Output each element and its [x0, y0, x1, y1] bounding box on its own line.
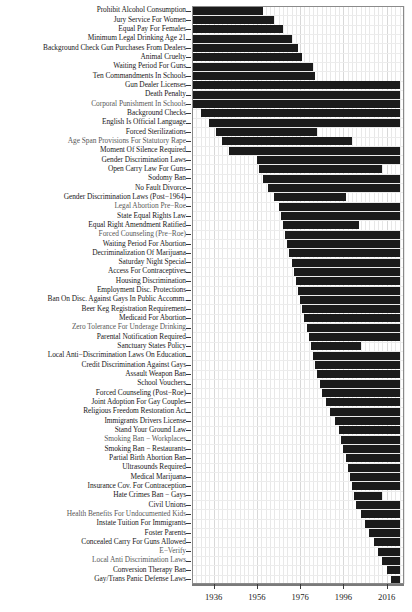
y-axis-label: Age Span Provisions For Statutory Rape [0, 137, 186, 145]
y-axis-tick [186, 533, 191, 534]
y-axis-label: Decriminalization Of Marijuana [0, 249, 186, 257]
y-axis-label: Immigrants Drivers License [0, 417, 186, 425]
timeline-bar [287, 240, 399, 248]
y-axis-label: Death Penalty [0, 90, 186, 98]
timeline-bar [263, 175, 399, 183]
timeline-bar [391, 576, 400, 584]
y-axis-label: Minimum Legal Drinking Age 21 [0, 34, 186, 42]
plot-area [192, 6, 404, 584]
y-axis-label: Forced Counseling (Post−Roe) [0, 389, 186, 397]
timeline-bar [192, 53, 302, 61]
y-axis-tick [186, 402, 191, 403]
y-axis-label: Gun Dealer Licenses [0, 81, 186, 89]
y-axis-label: Background Check Gun Purchases From Deal… [0, 44, 186, 52]
y-axis-tick [186, 421, 191, 422]
y-axis-tick [186, 570, 191, 571]
y-axis-tick [186, 141, 191, 142]
y-axis-label: Smoking Ban − Workplaces [0, 435, 186, 443]
x-axis-tick-label: 1956 [248, 592, 265, 602]
timeline-bar [268, 184, 400, 192]
y-axis-label: Jury Service For Women [0, 16, 186, 24]
timeline-bar [292, 259, 400, 267]
timeline-bar [192, 7, 263, 15]
timeline-bar [296, 277, 400, 285]
y-axis-tick [186, 449, 191, 450]
y-axis-tick [186, 216, 191, 217]
y-axis-tick [186, 253, 191, 254]
y-axis-tick [186, 328, 191, 329]
y-axis-label: Corporal Punishment In Schools [0, 100, 186, 108]
y-axis-tick [186, 132, 191, 133]
y-axis-tick [186, 151, 191, 152]
x-axis-tick-label: 1996 [335, 592, 352, 602]
y-axis-label: Ultrasounds Required [0, 463, 186, 471]
horizontal-gridline [192, 575, 404, 576]
vertical-gridline [404, 6, 405, 584]
y-axis-label: Equal Pay For Females [0, 25, 186, 33]
timeline-bar [309, 333, 400, 341]
horizontal-gridline [192, 342, 404, 343]
y-axis-label: State Equal Rights Law [0, 212, 186, 220]
y-axis-labels: Prohibit Alcohol ConsumptionJury Service… [0, 6, 186, 584]
y-axis-tick [186, 542, 191, 543]
timeline-bar [350, 473, 400, 481]
y-axis-tick [186, 123, 191, 124]
x-axis-tick [214, 584, 215, 589]
y-axis-tick [186, 262, 191, 263]
timeline-bar [274, 193, 345, 201]
y-axis-tick [186, 458, 191, 459]
y-axis-label: School Vouchers [0, 379, 186, 387]
horizontal-gridline [192, 556, 404, 557]
y-axis-tick [186, 272, 191, 273]
y-axis-tick [186, 29, 191, 30]
horizontal-gridline [192, 547, 404, 548]
y-axis-label: Gender Discrimination Laws (Post−1964) [0, 193, 186, 201]
y-axis-tick [186, 561, 191, 562]
timeline-bar [356, 501, 399, 509]
timeline-bar [339, 426, 400, 434]
timeline-bar [289, 249, 399, 257]
y-axis-label: Conversion Therapy Ban [0, 566, 186, 574]
timeline-bar [192, 100, 400, 108]
y-axis-label: Medical Marijuana [0, 473, 186, 481]
y-axis-tick [186, 300, 191, 301]
y-axis-tick [186, 57, 191, 58]
timeline-bar [283, 221, 359, 229]
timeline-bar [322, 389, 400, 397]
y-axis-label: Open Carry Law For Guns [0, 165, 186, 173]
y-axis-label: Waiting Period For Abortion [0, 240, 186, 248]
y-axis-tick [186, 178, 191, 179]
y-axis-tick [186, 234, 191, 235]
y-axis-label: Legal Abortion Pre−Roe [0, 202, 186, 210]
timeline-bar [365, 520, 400, 528]
timeline-bar [216, 128, 318, 136]
timeline-bar [285, 231, 400, 239]
x-axis-tick [257, 584, 258, 589]
timeline-bar [387, 566, 400, 574]
y-axis-label: Forced Counseling (Pre−Roe) [0, 230, 186, 238]
timeline-bar [279, 203, 400, 211]
y-axis-label: Civil Unions [0, 501, 186, 509]
timeline-bar [192, 63, 313, 71]
y-axis-label: Instate Tuition For Immigrants [0, 519, 186, 527]
timeline-bar [307, 324, 400, 332]
horizontal-gridline [192, 565, 404, 566]
y-axis-label: Housing Discrimination [0, 277, 186, 285]
timeline-bar [374, 538, 400, 546]
y-axis-tick [186, 412, 191, 413]
y-axis-tick [186, 495, 191, 496]
timeline-bar [300, 296, 400, 304]
y-axis-tick [186, 206, 191, 207]
timeline-bar [315, 361, 399, 369]
timeline-bar [378, 548, 400, 556]
timeline-bar [313, 352, 400, 360]
timeline-bar [326, 398, 400, 406]
y-axis-tick [186, 67, 191, 68]
y-axis-tick [186, 95, 191, 96]
timeline-bar [369, 529, 399, 537]
y-axis-label: English Is Official Language [0, 118, 186, 126]
x-axis-tick-label: 1976 [292, 592, 309, 602]
y-axis-tick [186, 477, 191, 478]
y-axis-tick [186, 244, 191, 245]
y-axis-tick [186, 197, 191, 198]
